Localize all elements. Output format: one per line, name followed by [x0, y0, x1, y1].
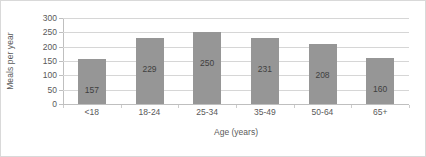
x-axis-tick-label: 50-64 — [294, 107, 352, 117]
y-axis-tick-label: 50 — [17, 85, 57, 95]
bar[interactable] — [366, 58, 394, 104]
x-axis-tick-mark — [236, 105, 237, 108]
y-axis-tick-label: 300 — [17, 13, 57, 23]
bar-value-label: 160 — [366, 84, 394, 94]
x-axis-tick-mark — [351, 105, 352, 108]
y-axis-tick-mark — [59, 32, 63, 33]
plot-area: 157229250231208160 — [63, 18, 409, 104]
y-axis-tick-mark — [59, 75, 63, 76]
x-axis-tick-mark — [294, 105, 295, 108]
bar-value-label: 208 — [309, 70, 337, 80]
bar[interactable] — [78, 59, 106, 104]
x-axis-tick-label: 35-49 — [236, 107, 294, 117]
x-axis-tick-labels: <1818-2425-3435-4950-6465+ — [63, 107, 409, 121]
y-axis-tick-mark — [59, 61, 63, 62]
x-axis-tick-mark — [178, 105, 179, 108]
gridline — [63, 18, 409, 19]
gridline — [63, 32, 409, 33]
y-axis-tick-label: 250 — [17, 27, 57, 37]
bar-value-label: 229 — [136, 64, 164, 74]
gridline — [63, 90, 409, 91]
gridline — [63, 47, 409, 48]
x-axis-tick-label: 65+ — [351, 107, 409, 117]
bar-chart: Meals per year 050100150200250300 157229… — [0, 0, 426, 157]
y-axis-tick-labels: 050100150200250300 — [13, 18, 57, 104]
y-axis-tick-label: 100 — [17, 70, 57, 80]
bar-value-label: 250 — [193, 58, 221, 68]
bar-value-label: 231 — [251, 64, 279, 74]
x-axis-tick-mark — [409, 105, 410, 108]
x-axis-tick-mark — [63, 105, 64, 108]
bar-value-label: 157 — [78, 85, 106, 95]
y-axis-tick-mark — [59, 90, 63, 91]
y-axis-tick-mark — [59, 18, 63, 19]
x-axis-tick-label: 25-34 — [178, 107, 236, 117]
y-axis-tick-label: 200 — [17, 42, 57, 52]
y-axis-tick-label: 150 — [17, 56, 57, 66]
x-axis-title: Age (years) — [63, 127, 409, 137]
y-axis-tick-label: 0 — [17, 99, 57, 109]
gridline — [63, 61, 409, 62]
gridline — [63, 75, 409, 76]
x-axis-tick-label: <18 — [63, 107, 121, 117]
x-axis-tick-label: 18-24 — [121, 107, 179, 117]
y-axis-tick-mark — [59, 47, 63, 48]
x-axis-tick-mark — [121, 105, 122, 108]
